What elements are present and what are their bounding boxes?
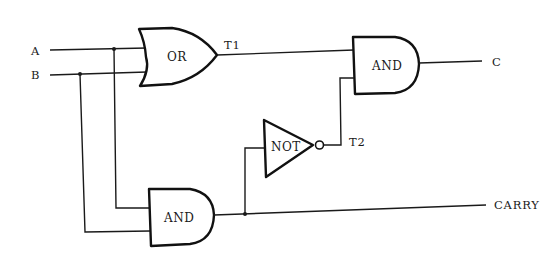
wire-input-b <box>50 72 147 75</box>
and-gate-sum: AND <box>353 37 419 94</box>
not-gate-label: NOT <box>271 140 301 154</box>
not-bubble-icon <box>316 141 324 149</box>
signal-label-t2: T2 <box>349 135 366 149</box>
or-gate: OR <box>139 28 217 86</box>
and-gate-carry-label: AND <box>163 211 194 225</box>
output-label-carry: CARRY <box>494 198 540 212</box>
and-gate-carry: AND <box>149 189 214 246</box>
or-gate-label: OR <box>167 50 187 64</box>
wire-output-carry <box>214 205 486 215</box>
wire-output-c <box>419 61 482 63</box>
half-adder-circuit: A B OR T1 AND C T2 NOT AND CARRY <box>0 0 543 268</box>
not-gate: NOT <box>264 120 324 177</box>
junction-b <box>78 72 82 76</box>
signal-label-t1: T1 <box>224 38 241 52</box>
wire-input-a <box>50 48 147 50</box>
wire-carry-to-not <box>245 148 264 214</box>
input-label-b: B <box>31 68 40 82</box>
input-label-a: A <box>30 44 40 58</box>
and-gate-sum-label: AND <box>371 59 402 73</box>
junction-a <box>112 47 116 51</box>
output-label-c: C <box>492 55 502 69</box>
